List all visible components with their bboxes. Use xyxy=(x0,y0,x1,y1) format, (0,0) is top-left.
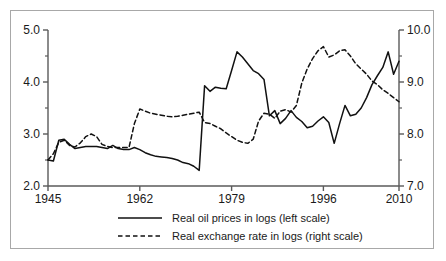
right-axis-tick-label: 9.0 xyxy=(407,75,424,89)
series-line-exchange-rate xyxy=(48,47,399,160)
figure-container: 2.03.04.05.07.08.09.010.0194519621979199… xyxy=(0,0,446,261)
left-axis-tick-label: 5.0 xyxy=(23,23,40,37)
legend-label-exchange-rate: Real exchange rate in logs (right scale) xyxy=(172,230,363,242)
axes-group: 2.03.04.05.07.08.09.010.0194519621979199… xyxy=(23,23,430,206)
legend-label-oil-prices: Real oil prices in logs (left scale) xyxy=(172,212,330,224)
x-axis-tick-label: 1979 xyxy=(218,192,245,206)
left-axis-tick-label: 4.0 xyxy=(23,75,40,89)
x-axis-tick-label: 2010 xyxy=(386,192,413,206)
right-axis-tick-label: 8.0 xyxy=(407,127,424,141)
left-axis-tick-label: 2.0 xyxy=(23,179,40,193)
right-axis-tick-label: 10.0 xyxy=(407,23,431,37)
x-axis-tick-label: 1945 xyxy=(35,192,62,206)
chart-canvas: 2.03.04.05.07.08.09.010.0194519621979199… xyxy=(0,0,446,261)
x-axis-tick-label: 1962 xyxy=(126,192,153,206)
legend: Real oil prices in logs (left scale)Real… xyxy=(118,212,363,242)
left-axis-tick-label: 3.0 xyxy=(23,127,40,141)
right-axis-tick-label: 7.0 xyxy=(407,179,424,193)
series-group xyxy=(48,47,399,171)
series-line-oil-prices xyxy=(48,52,399,171)
x-axis-tick-label: 1996 xyxy=(310,192,337,206)
